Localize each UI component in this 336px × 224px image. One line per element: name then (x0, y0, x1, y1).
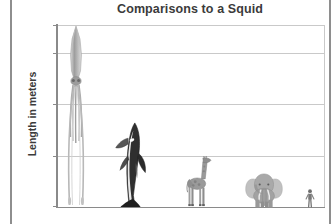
gridline-15 (57, 53, 325, 54)
gridline-18 (57, 25, 325, 26)
chart-page: Comparisons to a Squid Length in meters … (0, 0, 336, 224)
human-figure (305, 189, 315, 207)
y-axis-line (56, 24, 58, 207)
page-margin-rule-left (10, 0, 12, 224)
y-tick-0 (53, 206, 57, 207)
y-tick-15 (53, 53, 57, 54)
orca-figure (113, 121, 149, 207)
squid-figure (61, 25, 91, 207)
y-tick-18 (53, 25, 57, 26)
page-margin-rule-right (329, 0, 331, 224)
plot-area (57, 25, 325, 207)
elephant-figure (243, 172, 285, 207)
y-tick-5 (53, 156, 57, 157)
y-tick-10 (53, 104, 57, 105)
y-axis-title: Length in meters (26, 54, 38, 174)
gridline-10 (57, 104, 325, 105)
chart-title: Comparisons to a Squid (55, 2, 325, 16)
giraffe-figure (183, 156, 217, 207)
